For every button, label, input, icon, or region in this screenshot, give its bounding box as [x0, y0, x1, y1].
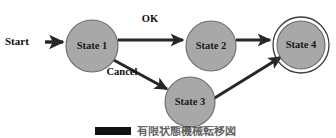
node-state4-final[interactable]: State 4 — [273, 17, 329, 73]
node-state1-label: State 1 — [77, 40, 108, 51]
figure-caption: 有限状態機械転移図 — [0, 126, 336, 138]
node-state3-label: State 3 — [175, 96, 206, 107]
node-state2[interactable]: State 2 — [186, 21, 236, 71]
node-state4-label: State 4 — [286, 39, 317, 50]
figure-caption-text: 有限状態機械転移図 — [137, 126, 236, 137]
edge-label-cancel: Cancel — [107, 66, 138, 77]
start-label: Start — [5, 35, 29, 47]
edge-label-ok: OK — [142, 13, 159, 24]
state-diagram-canvas: State 1 State 2 State 3 State 4 Start OK… — [0, 0, 336, 138]
node-state2-label: State 2 — [196, 40, 227, 51]
figure-number-badge — [95, 127, 131, 135]
state-diagram-figure: State 1 State 2 State 3 State 4 Start OK… — [0, 0, 336, 138]
node-state3[interactable]: State 3 — [165, 77, 215, 127]
node-state1[interactable]: State 1 — [66, 20, 118, 72]
